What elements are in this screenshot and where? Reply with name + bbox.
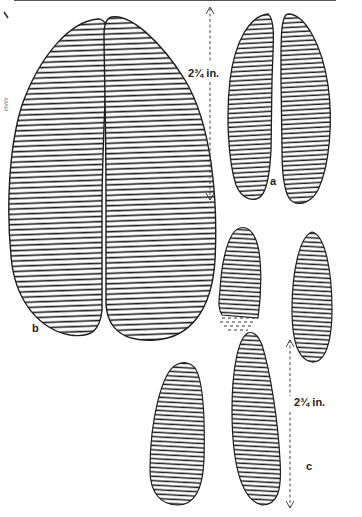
measurement-label-c: 2¾ in. — [294, 396, 325, 408]
print-c-upper-right — [292, 232, 332, 362]
print-b-right-half — [104, 17, 216, 340]
print-b — [9, 17, 216, 340]
print-label-a: a — [270, 175, 276, 187]
hoofprint-diagram — [0, 0, 362, 517]
print-a-left-half — [228, 14, 273, 199]
print-c-upper-left — [219, 228, 261, 319]
smudge-dashes — [220, 318, 258, 330]
print-label-c: c — [306, 460, 312, 472]
print-a-right-half — [281, 14, 330, 203]
side-note: MAR — [3, 98, 9, 111]
margin-mark — [4, 12, 8, 18]
measurement-arrow-c — [286, 340, 294, 508]
print-c-lower-left — [150, 363, 204, 505]
print-c-lower-right — [232, 333, 280, 506]
print-a — [228, 14, 330, 203]
print-b-left-half — [9, 19, 107, 336]
print-label-b: b — [32, 322, 39, 334]
measurement-label-a: 2¾ in. — [188, 67, 219, 79]
